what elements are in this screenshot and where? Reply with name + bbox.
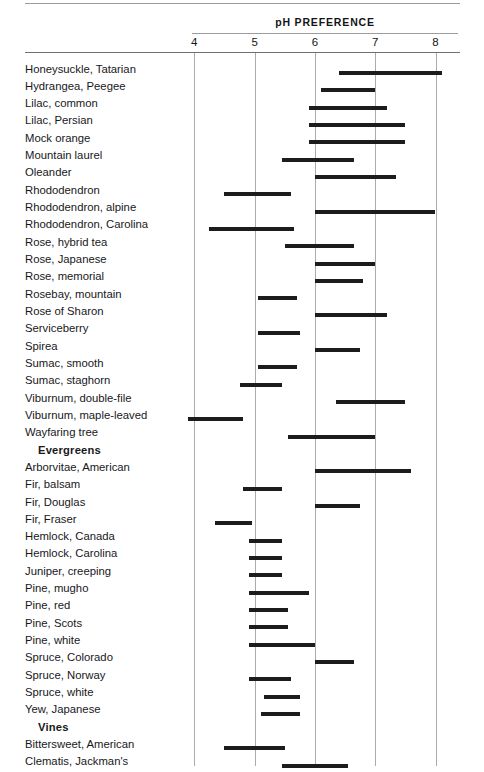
ph-range-bar (285, 244, 354, 248)
ph-range-bar (188, 417, 242, 421)
chart-row: Rosebay, mountain (0, 287, 484, 304)
chart-row: Arborvitae, American (0, 460, 484, 477)
chart-row: Rose, hybrid tea (0, 235, 484, 252)
ph-range-bar (288, 435, 375, 439)
chart-row: Rhododendron, alpine (0, 201, 484, 218)
chart-row: Mock orange (0, 131, 484, 148)
ph-range-bar (336, 400, 405, 404)
chart-row: Wayfaring tree (0, 426, 484, 443)
plant-label: Juniper, creeping (25, 565, 111, 578)
chart-row: Rhododendron (0, 183, 484, 200)
plant-label: Arborvitae, American (25, 461, 130, 474)
ph-range-bar (249, 643, 315, 647)
section-header-row: Evergreens (0, 443, 484, 460)
ph-range-bar (315, 660, 354, 664)
plant-label: Rose of Sharon (25, 305, 104, 318)
plant-label: Mock orange (25, 132, 90, 145)
plant-label: Serviceberry (25, 322, 88, 335)
ph-range-bar (215, 521, 251, 525)
axis-rule (25, 52, 460, 53)
chart-row: Spruce, Norway (0, 668, 484, 685)
chart-row: Fir, balsam (0, 478, 484, 495)
chart-row: Lilac, Persian (0, 114, 484, 131)
plant-label: Sumac, staghorn (25, 374, 110, 387)
section-header-row: Vines (0, 720, 484, 737)
plant-label: Pine, Scots (25, 617, 82, 630)
chart-row: Honeysuckle, Tatarian (0, 62, 484, 79)
axis-tick-6: 6 (302, 36, 328, 48)
plant-label: Fir, balsam (25, 478, 80, 491)
ph-range-bar (249, 608, 288, 612)
axis-tick-7: 7 (362, 36, 388, 48)
axis-tick-4: 4 (181, 36, 207, 48)
plant-label: Viburnum, maple-leaved (25, 409, 147, 422)
ph-range-bar (258, 331, 300, 335)
plant-label: Spruce, Colorado (25, 651, 113, 664)
ph-range-bar (315, 262, 375, 266)
ph-range-bar (243, 487, 282, 491)
ph-range-bar (209, 227, 293, 231)
plant-label: Pine, white (25, 634, 80, 647)
plant-label: Rhododendron, Carolina (25, 218, 148, 231)
plant-label: Clematis, Jackman's (25, 755, 128, 768)
plant-label: Mountain laurel (25, 149, 102, 162)
ph-range-bar (249, 591, 309, 595)
plant-label: Pine, mugho (25, 582, 88, 595)
chart-row: Clematis, Jackman's (0, 755, 484, 772)
section-label: Vines (38, 721, 69, 734)
chart-row: Bittersweet, American (0, 737, 484, 754)
chart-row: Sumac, smooth (0, 356, 484, 373)
ph-range-bar (264, 695, 300, 699)
plant-label: Wayfaring tree (25, 426, 98, 439)
ph-range-bar (315, 504, 360, 508)
chart-row: Yew, Japanese (0, 703, 484, 720)
chart-row: Rose, memorial (0, 270, 484, 287)
ph-range-bar (309, 123, 405, 127)
ph-range-bar (321, 88, 375, 92)
chart-row: Hydrangea, Peegee (0, 79, 484, 96)
chart-title: pH PREFERENCE (192, 16, 458, 28)
plant-label: Rose, hybrid tea (25, 236, 107, 249)
plant-label: Hydrangea, Peegee (25, 80, 126, 93)
plant-label: Yew, Japanese (25, 703, 101, 716)
ph-range-bar (315, 313, 387, 317)
chart-row: Lilac, common (0, 97, 484, 114)
chart-row: Viburnum, double-file (0, 391, 484, 408)
ph-range-bar (258, 365, 297, 369)
chart-row: Pine, Scots (0, 616, 484, 633)
section-label: Evergreens (38, 444, 101, 457)
plant-label: Hemlock, Carolina (25, 547, 117, 560)
ph-range-bar (224, 746, 284, 750)
chart-row: Rose, Japanese (0, 253, 484, 270)
plant-label: Lilac, Persian (25, 114, 93, 127)
ph-range-bar (315, 210, 436, 214)
ph-range-bar (315, 348, 360, 352)
chart-row: Fir, Douglas (0, 495, 484, 512)
ph-range-bar (249, 677, 291, 681)
chart-row: Rose of Sharon (0, 304, 484, 321)
ph-range-bar (249, 573, 282, 577)
chart-row: Mountain laurel (0, 149, 484, 166)
chart-row: Hemlock, Canada (0, 530, 484, 547)
plant-label: Bittersweet, American (25, 738, 134, 751)
chart-row: Pine, mugho (0, 582, 484, 599)
title-underline-rule (192, 33, 458, 34)
plant-label: Hemlock, Canada (25, 530, 115, 543)
chart-row: Spruce, white (0, 686, 484, 703)
ph-range-bar (309, 106, 387, 110)
plant-label: Lilac, common (25, 97, 98, 110)
ph-range-bar (309, 140, 405, 144)
ph-range-bar (315, 279, 363, 283)
plant-label: Spruce, white (25, 686, 93, 699)
chart-row: Hemlock, Carolina (0, 547, 484, 564)
chart-row: Pine, white (0, 634, 484, 651)
ph-range-bar (224, 192, 290, 196)
plant-label: Rhododendron (25, 184, 100, 197)
ph-range-bar (315, 469, 411, 473)
axis-tick-5: 5 (242, 36, 268, 48)
chart-row: Spruce, Colorado (0, 651, 484, 668)
plant-label: Rosebay, mountain (25, 288, 122, 301)
ph-range-bar (315, 175, 396, 179)
plant-label: Pine, red (25, 599, 70, 612)
